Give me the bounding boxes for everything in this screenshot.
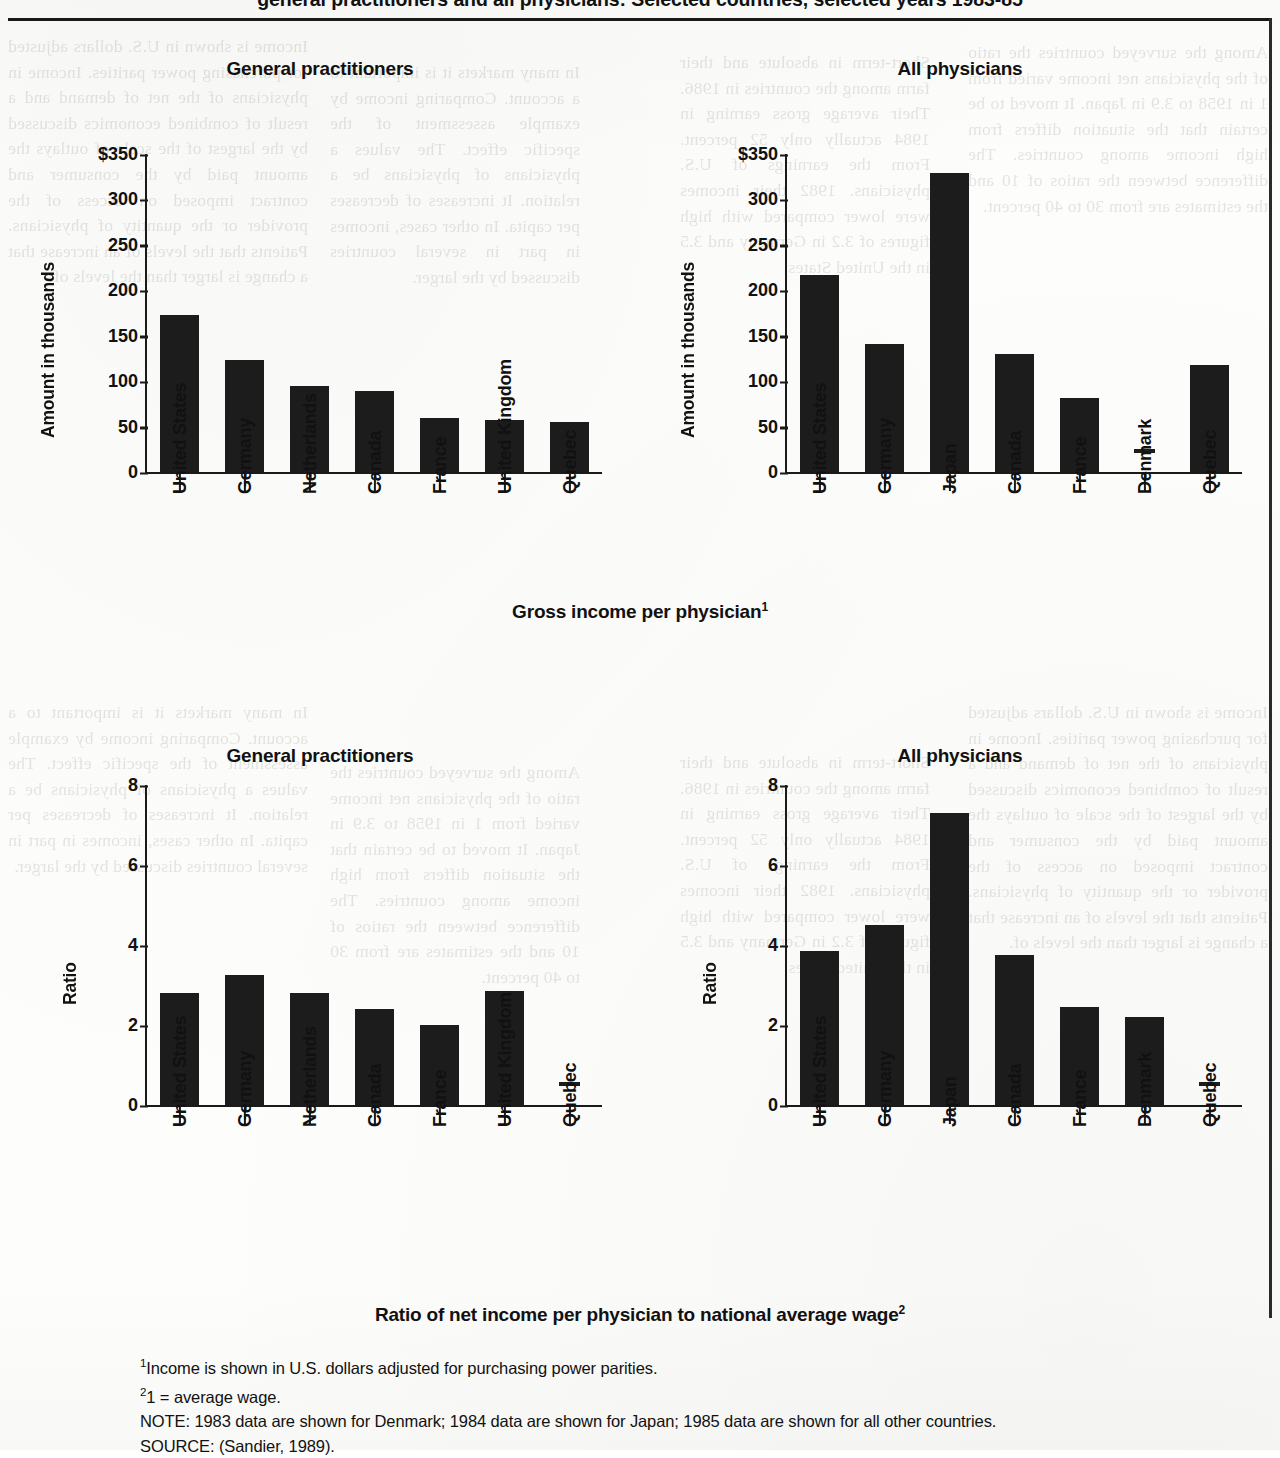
footnotes-block: 1Income is shown in U.S. dollars adjuste… xyxy=(140,1351,1190,1458)
chart-gp-gross-income: General practitionersAmount in thousands… xyxy=(20,58,620,578)
y-axis-tick-label: 2 xyxy=(128,1015,147,1036)
y-axis-tick-label: 200 xyxy=(108,280,147,301)
x-axis-tick-label: Netherlands xyxy=(299,1026,320,1127)
x-axis-tick-label: France xyxy=(1069,437,1090,494)
caption-gross-income-footnote-marker: 1 xyxy=(761,600,767,614)
title-divider-rule xyxy=(8,18,1272,21)
y-axis-tick-label: 6 xyxy=(768,855,787,876)
y-axis-tick-label: 4 xyxy=(768,935,787,956)
figure-title-clip: general practitioners and all physicians… xyxy=(0,0,1280,17)
y-axis-tick-label: 50 xyxy=(118,416,147,437)
x-axis-tick-label: United Kingdom xyxy=(494,992,515,1127)
y-axis-tick-label: 100 xyxy=(748,371,787,392)
bar xyxy=(930,813,969,1105)
footnote-note: NOTE: 1983 data are shown for Denmark; 1… xyxy=(140,1409,1190,1434)
plot-area: $350300250200150100500United StatesGerma… xyxy=(145,154,602,474)
x-axis-tick-label: Quebec xyxy=(1199,1063,1220,1127)
caption-ratio: Ratio of net income per physician to nat… xyxy=(0,1303,1280,1326)
y-axis-tick-label: 200 xyxy=(748,280,787,301)
y-axis-tick-label: 6 xyxy=(128,855,147,876)
footnote-2-text: 1 = average wage. xyxy=(146,1388,281,1406)
plot-area: $350300250200150100500United StatesGerma… xyxy=(785,154,1242,474)
x-axis-tick-label: Germany xyxy=(874,418,895,494)
x-axis-tick-label: France xyxy=(1069,1070,1090,1127)
x-axis-tick-label: Quebec xyxy=(1199,430,1220,494)
y-axis-tick-label: 8 xyxy=(768,775,787,796)
x-axis-tick-label: Denmark xyxy=(1134,1052,1155,1127)
y-axis-label: Amount in thousands xyxy=(38,208,59,438)
y-axis-label: Amount in thousands xyxy=(678,208,699,438)
y-axis-tick-label: $350 xyxy=(738,144,787,165)
x-axis-tick-label: Japan xyxy=(939,443,960,494)
y-axis-tick-label: 250 xyxy=(748,234,787,255)
caption-gross-income-text: Gross income per physician xyxy=(512,601,761,622)
y-axis-tick-label: 4 xyxy=(128,935,147,956)
y-axis-tick-label: 0 xyxy=(128,462,147,483)
x-axis-tick-label: France xyxy=(429,1070,450,1127)
y-axis-tick-label: 150 xyxy=(748,325,787,346)
y-axis-tick-label: 8 xyxy=(128,775,147,796)
chart-all-gross-income: All physiciansAmount in thousands$350300… xyxy=(660,58,1260,578)
x-axis-tick-label: United States xyxy=(169,1016,190,1127)
page-right-rule xyxy=(1269,18,1272,1318)
x-axis-tick-label: Denmark xyxy=(1134,419,1155,494)
x-axis-tick-label: Germany xyxy=(234,1051,255,1127)
y-axis-tick-label: 0 xyxy=(128,1095,147,1116)
y-axis-tick-label: 50 xyxy=(758,416,787,437)
chart-title: General practitioners xyxy=(20,745,620,767)
chart-all-ratio: All physiciansRatio86420United StatesGer… xyxy=(660,745,1260,1265)
x-axis-tick-label: Japan xyxy=(939,1076,960,1127)
y-axis-label: Ratio xyxy=(60,895,81,1005)
y-axis-tick-label: 250 xyxy=(108,234,147,255)
x-axis-tick-label: United Kingdom xyxy=(494,359,515,494)
chart-title: General practitioners xyxy=(20,58,620,80)
y-axis-tick-label: 150 xyxy=(108,325,147,346)
y-axis-tick-label: 100 xyxy=(108,371,147,392)
footnote-1: 1Income is shown in U.S. dollars adjuste… xyxy=(140,1351,1190,1380)
caption-ratio-footnote-marker: 2 xyxy=(899,1303,905,1317)
footnote-1-text: Income is shown in U.S. dollars adjusted… xyxy=(146,1359,657,1377)
x-axis-tick-label: Germany xyxy=(234,418,255,494)
y-axis-tick-label: 2 xyxy=(768,1015,787,1036)
x-axis-tick-label: Canada xyxy=(1004,1064,1025,1127)
figure-title: general practitioners and all physicians… xyxy=(0,0,1280,11)
x-axis-tick-label: United States xyxy=(169,383,190,494)
chart-title: All physicians xyxy=(660,58,1260,80)
y-axis-tick-label: 300 xyxy=(748,189,787,210)
x-axis-tick-label: Germany xyxy=(874,1051,895,1127)
x-axis-tick-label: Canada xyxy=(1004,431,1025,494)
y-axis-tick-label: 0 xyxy=(768,462,787,483)
x-axis-tick-label: Netherlands xyxy=(299,393,320,494)
caption-ratio-text: Ratio of net income per physician to nat… xyxy=(375,1304,899,1325)
x-axis-tick-label: Canada xyxy=(364,431,385,494)
plot-area: 86420United StatesGermanyJapanCanadaFran… xyxy=(785,785,1242,1107)
x-axis-tick-label: Canada xyxy=(364,1064,385,1127)
footnote-2: 21 = average wage. xyxy=(140,1380,1190,1409)
x-axis-tick-label: Quebec xyxy=(559,1063,580,1127)
x-axis-tick-label: France xyxy=(429,437,450,494)
chart-gp-ratio: General practitionersRatio86420United St… xyxy=(20,745,620,1265)
y-axis-tick-label: $350 xyxy=(98,144,147,165)
y-axis-label: Ratio xyxy=(700,895,721,1005)
bar xyxy=(930,173,969,472)
x-axis-tick-label: United States xyxy=(809,1016,830,1127)
chart-title: All physicians xyxy=(660,745,1260,767)
x-axis-tick-label: Quebec xyxy=(559,430,580,494)
y-axis-tick-label: 0 xyxy=(768,1095,787,1116)
footnote-source: SOURCE: (Sandier, 1989). xyxy=(140,1434,1190,1458)
x-axis-tick-label: United States xyxy=(809,383,830,494)
y-axis-tick-label: 300 xyxy=(108,189,147,210)
plot-area: 86420United StatesGermanyNetherlandsCana… xyxy=(145,785,602,1107)
caption-gross-income: Gross income per physician1 xyxy=(0,600,1280,623)
